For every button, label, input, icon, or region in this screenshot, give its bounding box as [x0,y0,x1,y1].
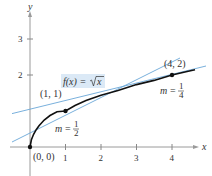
x-tick-3: 3 [134,153,139,163]
y-ticks: 2 3 [18,34,33,80]
slope-label-1-4: m = 1 4 [160,81,184,100]
point-label-1-1: (1, 1) [40,88,62,100]
function-label-lhs: f(x) = [63,76,86,88]
point-label-4-2: (4, 2) [164,58,186,70]
figure-canvas: y x 1 2 3 4 2 3 (0, 0) (1, 1) (4, 2) f(x… [0,0,212,176]
x-axis-label: x [201,141,207,152]
slope-m-label: m [160,85,167,96]
point-4-2 [170,73,174,77]
slope-denominator: 2 [74,128,79,138]
function-label: f(x) = x [63,76,104,88]
slope-label-1-2: m = 1 2 [55,119,79,138]
svg-text:=: = [65,123,71,134]
x-axis-arrow-icon [193,145,199,149]
y-tick-2: 2 [18,70,23,80]
x-tick-4: 4 [170,153,175,163]
x-tick-2: 2 [99,153,104,163]
x-tick-1: 1 [63,153,68,163]
function-label-radicand: x [96,76,102,87]
svg-text:f(x) =: f(x) = [63,76,86,88]
point-label-0-0: (0, 0) [33,151,55,163]
slope-denominator: 4 [179,90,184,100]
y-axis-label: y [27,1,33,12]
point-0-0 [28,145,32,149]
svg-text:=: = [170,85,176,96]
slope-m-label: m [55,123,62,134]
y-tick-3: 3 [18,34,23,44]
point-1-1 [63,109,67,113]
sqrt-curve [30,70,195,147]
